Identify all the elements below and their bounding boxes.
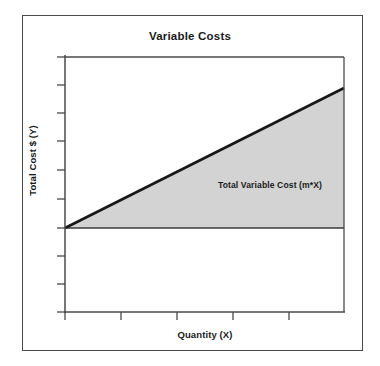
x-axis-ticks xyxy=(65,312,289,320)
y-axis-label: Total Cost $ (Y) xyxy=(27,101,38,221)
plot-area xyxy=(0,0,380,366)
chart-figure: Variable Costs xyxy=(0,0,380,366)
y-axis-ticks xyxy=(57,57,65,312)
x-axis-label: Quantity (X) xyxy=(65,329,345,340)
